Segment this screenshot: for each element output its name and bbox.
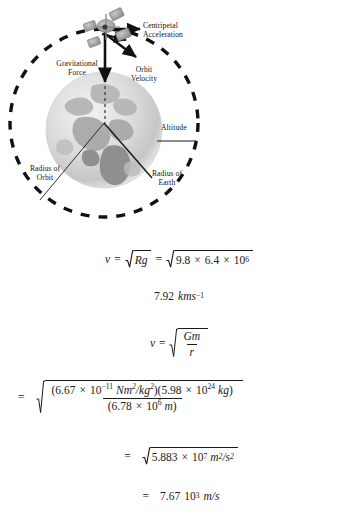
eq2-unit: kms <box>178 290 196 302</box>
eq6-value: 7.67 <box>160 490 180 502</box>
eq4-G-mantissa: 6.67 <box>55 384 75 396</box>
equation-line-4: = (6.67×10−11Nm2/kg2)(5.98×1024kg) (6.78… <box>0 380 358 414</box>
eq1-times-2: × <box>219 254 234 266</box>
label-altitude: Altitude <box>161 124 187 133</box>
equation-line-5: = 5.883×107m2/s2 <box>0 447 358 465</box>
eq3-numerator: Gm <box>180 330 203 344</box>
eq4-m-base: 10 <box>196 384 208 396</box>
eq6-unit: m/s <box>203 490 219 502</box>
eq1-Rg: Rg <box>135 254 148 266</box>
label-orbit-velocity: Orbit Velocity <box>120 66 168 83</box>
eq4-times-a: × <box>75 384 90 396</box>
orbit-figure: Centripetal Acceleration Gravitational F… <box>0 0 358 240</box>
eq4-m-unit: kg <box>218 384 229 396</box>
eq4-G-unit-div: /kg <box>136 384 150 396</box>
eq1-n3: 10 <box>234 254 246 266</box>
eq5-base: 10 <box>192 451 204 463</box>
eq4-close-2: ) <box>229 384 233 396</box>
eq2-value: 7.92 <box>154 290 174 302</box>
satellite-icon <box>83 7 131 47</box>
radical-sign-icon <box>166 250 175 268</box>
eq3-den-r: r <box>190 346 194 358</box>
equation-line-2: 7.92 kms−1 <box>0 290 358 302</box>
eq4-r-mantissa: 6.78 <box>112 400 132 412</box>
eq6-equals: = <box>139 490 154 502</box>
label-radius-of-earth: Radius of Earth <box>140 170 194 187</box>
eq4-r-base: 10 <box>146 400 158 412</box>
radical-sign-icon <box>36 380 45 414</box>
eq6-base: 10 <box>184 490 196 502</box>
eq5-radical: 5.883×107m2/s2 <box>142 447 238 465</box>
eq4-G-unit: Nm <box>116 384 132 396</box>
eq4-m-exp: 24 <box>208 382 216 391</box>
eq4-G-base: 10 <box>90 384 102 396</box>
eq3-equals: = <box>155 337 170 349</box>
eq3-fraction: Gm r <box>179 330 204 359</box>
eq4-fraction: (6.67×10−11Nm2/kg2)(5.98×1024kg) (6.78×1… <box>46 384 239 413</box>
eq5-unit-den: /s <box>222 451 230 463</box>
eq1-radical-rg: Rg <box>125 250 152 268</box>
label-centripetal-acceleration: Centripetal Acceleration <box>143 22 183 39</box>
eq4-radical-fraction: (6.67×10−11Nm2/kg2)(5.98×1024kg) (6.78×1… <box>36 380 243 414</box>
eq1-n2: 6.4 <box>205 254 219 266</box>
eq5-mantissa: 5.883 <box>152 451 178 463</box>
radical-sign-icon <box>142 447 151 465</box>
radical-sign-icon <box>125 250 134 268</box>
eq1-n1: 9.8 <box>176 254 190 266</box>
eq4-r-exp: 6 <box>158 398 162 407</box>
eq4-equals: = <box>14 391 29 403</box>
eq1-times-1: × <box>190 254 205 266</box>
eq4-times-c: × <box>132 400 147 412</box>
eq4-G-exp: −11 <box>101 382 113 391</box>
eq4-times-b: × <box>182 384 197 396</box>
label-gravitational-force: Gravitational Force <box>44 60 110 77</box>
equation-line-6: = 7.67 103 m/s <box>0 490 358 502</box>
eq3-radical-fraction: Gm r <box>169 328 208 358</box>
eq4-numerator: (6.67×10−11Nm2/kg2)(5.98×1024kg) <box>47 384 238 398</box>
eq5-unit-num: m <box>210 451 218 463</box>
eq4-r-unit: m <box>164 400 172 412</box>
eq1-equals-2: = <box>151 253 166 265</box>
eq1-equals-1: = <box>110 253 125 265</box>
eq3-denominator: r <box>187 344 197 359</box>
equation-line-3: v = Gm r <box>0 328 358 358</box>
eq4-denominator: (6.78×106m) <box>103 398 182 413</box>
derivation-block: v = Rg = 9.8 × 6.4 × 106 7.92 kms−1 <box>0 240 358 515</box>
equation-line-1: v = Rg = 9.8 × 6.4 × 106 <box>0 250 358 268</box>
eq5-times: × <box>178 451 193 463</box>
radical-sign-icon <box>169 328 178 358</box>
label-radius-of-orbit: Radius of Orbit <box>20 165 70 182</box>
eq4-m-mantissa: 5.98 <box>161 384 181 396</box>
eq4-den-close: ) <box>173 400 177 412</box>
eq1-radical-numeric: 9.8 × 6.4 × 106 <box>166 250 253 268</box>
eq5-equals: = <box>120 450 135 462</box>
